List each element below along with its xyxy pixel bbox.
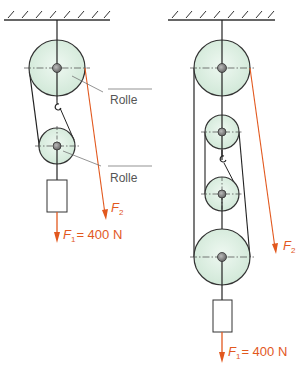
svg-text:Rolle: Rolle	[110, 171, 138, 185]
ceiling-left	[4, 11, 110, 20]
fixed-pulley-left	[24, 40, 90, 100]
force-f2-arrow-right	[250, 68, 278, 254]
fixed-pulley-right-small	[201, 115, 243, 149]
pulley-diagram: F1= 400 N F2 Rolle Rolle	[0, 0, 301, 366]
fixed-pulley-right-large	[190, 40, 254, 96]
left-pulley-system: F1= 400 N F2 Rolle Rolle	[4, 11, 152, 244]
load-weight-left	[47, 180, 67, 212]
load-weight-right	[213, 300, 232, 332]
ceiling-right	[168, 11, 275, 20]
svg-text:Rolle: Rolle	[110, 93, 138, 107]
hook-right	[220, 150, 226, 162]
loose-pulley-left	[35, 126, 79, 180]
force-f2-arrow-left	[85, 68, 108, 220]
force-f1-label-left: F1= 400 N	[63, 227, 122, 244]
force-f1-arrow-right	[219, 332, 225, 363]
force-f1-label-right: F1= 400 N	[228, 344, 287, 361]
force-f2-label-right: F2	[283, 238, 296, 255]
right-pulley-system: F1= 400 N F2	[168, 11, 296, 363]
rolle-label-bottom: Rolle	[63, 151, 152, 185]
force-f1-arrow-left	[54, 212, 60, 243]
loose-pulley-right-large	[190, 229, 254, 300]
rolle-label-top: Rolle	[72, 76, 152, 107]
force-f2-label-left: F2	[111, 200, 124, 217]
